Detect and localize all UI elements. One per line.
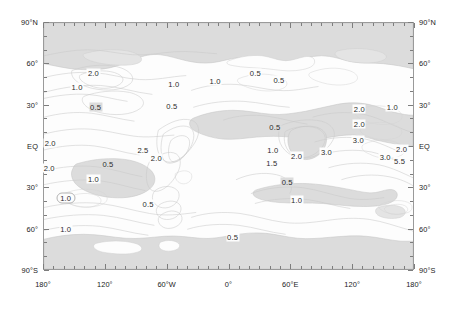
- axis-label-lon-0: 180°: [35, 280, 51, 289]
- axis-label-lat-right-5: 60°: [419, 224, 430, 233]
- tick-lat-left-80: [44, 36, 47, 37]
- contour-label: 2.0: [353, 104, 366, 113]
- tick-lon-bottom-90: [321, 266, 322, 269]
- tick-lon-bottom-50: [280, 266, 281, 269]
- tick-lat-right-50: [410, 77, 413, 78]
- tick-lat-right--90: [408, 270, 413, 271]
- tick-lon-top--40: [187, 23, 188, 26]
- tick-lon-bottom-110: [342, 266, 343, 269]
- tick-lon-bottom-80: [311, 266, 312, 269]
- tick-lat-left--70: [44, 242, 47, 243]
- axis-label-lon-5: 120°: [344, 280, 360, 289]
- figure-root: .sh{fill:#dcdcdc;stroke:#c6c6c6;stroke-w…: [0, 0, 455, 315]
- tick-lon-bottom--120: [105, 264, 106, 269]
- tick-lon-top--100: [125, 23, 126, 26]
- contour-label: 3.0: [352, 136, 365, 145]
- tick-lon-bottom-180: [414, 264, 415, 269]
- tick-lon-bottom--110: [115, 266, 116, 269]
- axis-label-lat-right-4: 30°: [419, 183, 430, 192]
- contour-label: 3.0: [379, 153, 392, 162]
- tick-lon-top-80: [311, 23, 312, 26]
- tick-lat-right--40: [410, 201, 413, 202]
- tick-lat-left-20: [44, 118, 47, 119]
- tick-lat-left-70: [44, 50, 47, 51]
- axis-label-lat-left-4: 30°: [2, 183, 38, 192]
- tick-lon-top-140: [373, 23, 374, 26]
- contour-label: 0.5: [268, 122, 281, 131]
- tick-lon-bottom--50: [177, 266, 178, 269]
- tick-lon-bottom-100: [332, 266, 333, 269]
- contour-label: 0.5: [89, 103, 102, 112]
- tick-lon-top-180: [414, 23, 415, 28]
- tick-lon-bottom-140: [373, 266, 374, 269]
- tick-lon-bottom-150: [383, 266, 384, 269]
- axis-label-lat-left-0: 90°N: [2, 18, 38, 27]
- tick-lat-right--60: [408, 229, 413, 230]
- contour-label: 2.5: [136, 146, 149, 155]
- shaded-lobe-east-1: [376, 205, 406, 218]
- tick-lon-bottom--180: [43, 264, 44, 269]
- axis-label-lat-right-3: EQ: [419, 142, 430, 151]
- axis-label-lon-3: 0°: [225, 280, 232, 289]
- contour-label: 1.5: [265, 158, 278, 167]
- contour-label: 0.5: [249, 68, 262, 77]
- axis-label-lat-right-1: 60°: [419, 59, 430, 68]
- tick-lat-left--10: [44, 160, 47, 161]
- axis-label-lat-right-2: 30°: [419, 100, 430, 109]
- tick-lon-top-50: [280, 23, 281, 26]
- tick-lon-top-20: [249, 23, 250, 26]
- axis-label-lon-2: 60°W: [157, 280, 176, 289]
- contour-label: 3.0: [320, 147, 333, 156]
- tick-lon-top--110: [115, 23, 116, 26]
- tick-lat-right-0: [408, 146, 413, 147]
- tick-lon-bottom--160: [64, 266, 65, 269]
- tick-lon-top--10: [218, 23, 219, 26]
- contour-label: 1.0: [56, 193, 75, 204]
- tick-lon-bottom--10: [218, 266, 219, 269]
- tick-lon-bottom--70: [156, 266, 157, 269]
- contour-label: 1.0: [59, 224, 72, 233]
- tick-lat-left-10: [44, 132, 47, 133]
- tick-lon-top--70: [156, 23, 157, 26]
- tick-lon-bottom-70: [301, 266, 302, 269]
- tick-lon-bottom-60: [290, 264, 291, 269]
- tick-lat-right-30: [408, 105, 413, 106]
- tick-lon-top--80: [146, 23, 147, 26]
- contour-label: 2.0: [290, 151, 303, 160]
- axis-label-lon-6: 180°: [406, 280, 422, 289]
- tick-lon-top-150: [383, 23, 384, 26]
- tick-lat-right--10: [410, 160, 413, 161]
- tick-lon-bottom--40: [187, 266, 188, 269]
- axis-label-lon-4: 60°E: [282, 280, 299, 289]
- contour-label: 2.0: [87, 68, 100, 77]
- tick-lon-bottom--170: [53, 266, 54, 269]
- tick-lat-left-30: [44, 105, 49, 106]
- tick-lat-right--70: [410, 242, 413, 243]
- axis-label-lat-left-5: 60°: [2, 224, 38, 233]
- tick-lon-top-40: [270, 23, 271, 26]
- axis-label-lat-left-2: 30°: [2, 100, 38, 109]
- tick-lat-left--60: [44, 229, 49, 230]
- contour-label: 2.0: [43, 164, 56, 173]
- contour-label: 1.0: [167, 80, 180, 89]
- tick-lon-top-100: [332, 23, 333, 26]
- contour-label: 0.5: [101, 159, 114, 168]
- tick-lon-top--90: [136, 23, 137, 26]
- tick-lon-bottom--100: [125, 266, 126, 269]
- contour-label: 0.5: [226, 232, 239, 241]
- tick-lon-bottom-130: [362, 266, 363, 269]
- tick-lat-left-60: [44, 63, 49, 64]
- tick-lon-top--20: [208, 23, 209, 26]
- tick-lat-left-50: [44, 77, 47, 78]
- contour-label: 2.0: [395, 144, 408, 153]
- contour-label: 0.5: [142, 199, 155, 208]
- tick-lon-top--140: [84, 23, 85, 26]
- tick-lon-bottom-160: [393, 266, 394, 269]
- tick-lon-bottom--150: [74, 266, 75, 269]
- tick-lon-top--160: [64, 23, 65, 26]
- tick-lon-top-120: [352, 23, 353, 28]
- tick-lon-top-170: [404, 23, 405, 26]
- tick-lon-bottom--80: [146, 266, 147, 269]
- tick-lon-top-90: [321, 23, 322, 26]
- tick-lon-top--120: [105, 23, 106, 28]
